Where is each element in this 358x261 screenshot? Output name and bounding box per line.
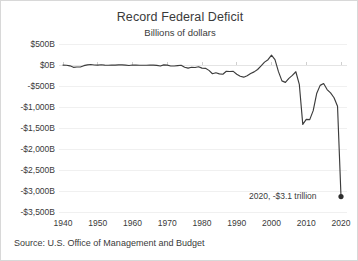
- y-tick-label: -$500B: [28, 81, 56, 91]
- y-tick-label: -$3,000B: [21, 186, 56, 196]
- y-tick-label: -$1,500B: [21, 123, 56, 133]
- x-tick-label: 1960: [123, 218, 142, 228]
- y-tick-label: $500B: [30, 39, 55, 49]
- deficit-line-series: [63, 55, 341, 196]
- y-tick-label: -$2,000B: [21, 144, 56, 154]
- endpoint-marker-2020: [338, 194, 343, 199]
- y-axis-tick-labels: $500B$0B-$500B-$1,000B-$1,500B-$2,000B-$…: [21, 39, 56, 217]
- chart-plot-area: $500B$0B-$500B-$1,000B-$1,500B-$2,000B-$…: [1, 1, 358, 261]
- chart-figure: Record Federal Deficit Billions of dolla…: [0, 0, 358, 261]
- x-axis-tick-labels: 194019501960197019801990200020102020: [54, 218, 351, 228]
- x-tick-label: 2010: [297, 218, 316, 228]
- x-tick-label: 2000: [262, 218, 281, 228]
- x-tick-label: 1990: [227, 218, 246, 228]
- y-tick-label: $0B: [40, 60, 55, 70]
- x-tick-label: 1970: [158, 218, 177, 228]
- source-note: Source: U.S. Office of Management and Bu…: [14, 238, 204, 248]
- x-tick-label: 1980: [193, 218, 212, 228]
- y-tick-label: -$3,500B: [21, 207, 56, 217]
- x-tick-label: 1940: [54, 218, 73, 228]
- gridlines: [59, 44, 347, 212]
- x-tick-label: 2020: [332, 218, 351, 228]
- x-tick-label: 1950: [88, 218, 107, 228]
- y-tick-label: -$1,000B: [21, 102, 56, 112]
- y-tick-label: -$2,500B: [21, 165, 56, 175]
- annotation-2020-label: 2020, -$3.1 trillion: [249, 191, 317, 201]
